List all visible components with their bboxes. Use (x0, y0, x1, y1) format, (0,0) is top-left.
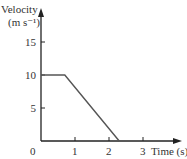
y-axis-label: Velocity (1, 3, 38, 15)
x-tick-label: 3 (140, 145, 146, 157)
x-axis (41, 138, 182, 144)
y-tick-label: 10 (25, 69, 37, 81)
x-tick-label: 2 (106, 145, 112, 157)
x-tick-label: 1 (72, 145, 78, 157)
x-axis-arrow-icon (173, 138, 182, 144)
axis-tick-labels: 012351015 (25, 36, 146, 157)
y-tick-label: 5 (31, 102, 37, 114)
axis-ticks (41, 42, 143, 141)
x-axis-label: Time (s) (151, 145, 187, 158)
x-tick-label: 0 (30, 145, 36, 157)
y-tick-label: 15 (25, 36, 37, 48)
velocity-time-chart: 012351015 Velocity (m s⁻¹) Time (s) (0, 0, 187, 159)
y-axis-unit: (m s⁻¹) (8, 16, 40, 29)
velocity-line (41, 75, 119, 141)
